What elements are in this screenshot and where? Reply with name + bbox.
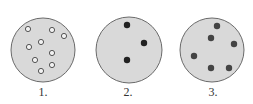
filled-dot <box>231 41 237 47</box>
filled-dot <box>208 35 214 41</box>
filled-dot <box>124 57 130 63</box>
dish-2-label: 2. <box>113 85 143 100</box>
filled-dot <box>191 53 197 59</box>
hollow-dot <box>49 50 54 55</box>
hollow-dot <box>38 68 43 73</box>
dish-3 <box>180 18 244 82</box>
hollow-dot <box>49 62 54 67</box>
hollow-dot <box>61 33 66 38</box>
hollow-dot <box>25 26 30 31</box>
dish-2 <box>96 17 162 83</box>
filled-dot <box>208 65 214 71</box>
dish-3-label: 3. <box>198 85 228 100</box>
filled-dot <box>214 23 220 29</box>
dish-1-label: 1. <box>28 85 58 100</box>
hollow-dot <box>49 27 54 32</box>
filled-dot <box>124 22 130 28</box>
petri-dish-circle <box>180 18 244 82</box>
filled-dot <box>141 40 147 46</box>
hollow-dot <box>32 57 37 62</box>
dish-1 <box>11 18 75 82</box>
hollow-dot <box>38 39 43 44</box>
filled-dot <box>226 65 232 71</box>
hollow-dot <box>26 44 31 49</box>
